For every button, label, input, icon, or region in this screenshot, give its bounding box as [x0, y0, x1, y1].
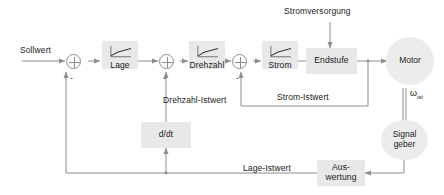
label-omega-ist: ωist [410, 88, 423, 100]
block-lage-controller[interactable]: Lage [102, 41, 138, 69]
wire-signalgeber-to-auswertung [365, 158, 404, 173]
node-motor[interactable]: Motor [386, 37, 434, 85]
label-strom-istwert: Strom-Istwert [277, 92, 329, 102]
wire-junction-dots [165, 60, 370, 175]
block-lage-label: Lage [110, 61, 129, 70]
saturation-curve-icon [193, 44, 221, 60]
saturation-curve-icon [266, 44, 294, 60]
block-endstufe[interactable]: Endstufe [306, 48, 357, 74]
block-strom-controller[interactable]: Strom [262, 41, 298, 69]
sum-position[interactable] [66, 54, 81, 69]
block-drehzahl-label: Drehzahl [190, 61, 225, 70]
sum-speed-minus-sign: - [163, 74, 166, 83]
junction-dot-ddt-tap [165, 172, 168, 175]
omega-subscript: ist [417, 94, 423, 100]
sum-speed[interactable] [159, 54, 174, 69]
label-lage-istwert: Lage-Istwert [243, 163, 291, 173]
signalgeber-label-line2: geber [394, 140, 416, 150]
node-signalgeber[interactable]: Signal geber [381, 120, 428, 160]
label-stromversorgung: Stromversorgung [284, 6, 351, 16]
sum-current-minus-sign: - [236, 74, 239, 83]
sum-current[interactable] [232, 54, 247, 69]
block-drehzahl-controller[interactable]: Drehzahl [189, 41, 225, 69]
saturation-curve-icon [106, 44, 134, 60]
auswertung-label-line2: wertung [326, 173, 357, 183]
block-strom-label: Strom [268, 61, 291, 70]
block-diagram-canvas: Sollwert - Lage - Drehzahl - Strom Strom… [0, 0, 444, 195]
block-ddt[interactable]: d/dt [141, 122, 191, 148]
junction-dot-endstufe-tap [367, 60, 370, 63]
label-drehzahl-istwert: Drehzahl-Istwert [163, 95, 226, 105]
omega-symbol: ω [410, 88, 417, 98]
sum-position-minus-sign: - [70, 74, 73, 83]
label-sollwert: Sollwert [20, 45, 51, 55]
block-auswertung[interactable]: Aus- wertung [317, 160, 365, 186]
wire-lage-istwert-feedback [66, 72, 317, 173]
